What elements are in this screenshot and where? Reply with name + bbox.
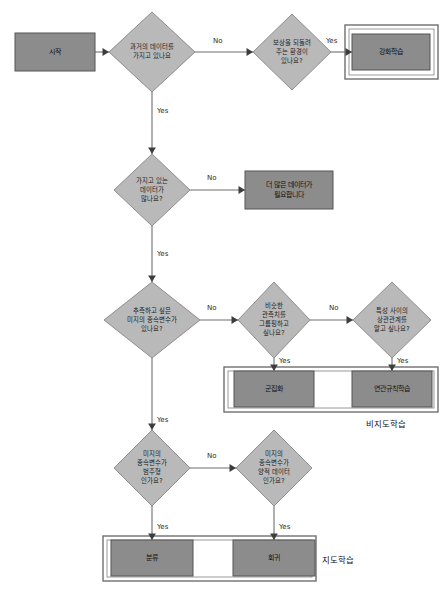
node-b_regress[interactable]: 회귀: [233, 540, 315, 576]
node-label-d_reward: 보상을 되돌려: [273, 38, 311, 47]
node-label-d_target: 있나요?: [141, 324, 162, 333]
node-label-b_class: 분류: [146, 554, 159, 562]
group-caption-g_supervised: 지도학습: [322, 555, 354, 565]
node-d_enough[interactable]: 가지고 있는데이터가많나요?: [114, 154, 190, 226]
node-label-d_reward: 주는 환경이: [276, 47, 308, 56]
group-captions-layer: 비지도학습지도학습: [322, 419, 406, 565]
arrowhead-b_cluster: [270, 365, 278, 372]
flowchart-svg: 시작과거의 데이터를가지고 있나요보상을 되돌려주는 환경이있나요?강화학습가지…: [0, 0, 444, 593]
node-label-d_corr: 상관관계를: [377, 315, 407, 324]
node-b_cluster[interactable]: 군집화: [234, 371, 314, 407]
node-label-d_corr: 특성 사이의: [376, 306, 408, 315]
node-label-d_group: 싶나요?: [263, 328, 284, 337]
edge-label-d_quant-to-b_regress: Yes: [278, 523, 291, 531]
node-label-d_categor: 미지의: [143, 449, 161, 458]
flowchart-canvas: 시작과거의 데이터를가지고 있나요보상을 되돌려주는 환경이있나요?강화학습가지…: [0, 0, 444, 593]
node-label-start: 시작: [49, 47, 62, 56]
arrowhead-d_quant: [230, 464, 237, 472]
edge-label-d_group-to-d_corr: No: [329, 304, 339, 312]
node-d_target[interactable]: 추측하고 싶은미지의 종속변수가있나요?: [104, 282, 200, 358]
node-label-b_cluster: 군집화: [265, 384, 284, 393]
node-label-d_history: 가지고 있나요: [133, 51, 171, 60]
edge-label-d_history-to-d_enough: Yes: [156, 107, 169, 115]
node-label-d_target: 미지의 종속변수가: [127, 315, 177, 324]
node-b_rl[interactable]: 강화학습: [352, 34, 430, 70]
node-label-d_enough: 가지고 있는: [136, 176, 168, 185]
node-label-b_rl: 강화학습: [379, 47, 404, 56]
arrowhead-d_target: [148, 276, 156, 283]
node-label-b_moredata: 더 많은 데이터가: [266, 180, 313, 189]
node-label-d_quant: 미지의: [265, 449, 283, 458]
arrowhead-d_reward: [247, 48, 254, 56]
edge-label-d_corr-to-b_assoc: Yes: [396, 357, 409, 365]
node-d_quant[interactable]: 미지의종속변수가양적 데이터인가요?: [236, 430, 312, 506]
arrowhead-b_regress: [270, 534, 278, 541]
node-b_moredata[interactable]: 더 많은 데이터가필요합니다: [245, 171, 333, 209]
edge-label-d_enough-to-d_target: Yes: [156, 250, 169, 258]
arrowhead-d_group: [232, 316, 239, 324]
group-caption-g_unsupervised: 비지도학습: [366, 419, 406, 429]
arrowhead-b_assoc: [388, 365, 396, 372]
nodes-layer: 시작과거의 데이터를가지고 있나요보상을 되돌려주는 환경이있나요?강화학습가지…: [15, 12, 432, 576]
node-label-d_target: 추측하고 싶은: [133, 306, 171, 315]
arrowhead-d_enough: [148, 148, 156, 155]
node-label-d_history: 과거의 데이터를: [130, 42, 174, 51]
node-d_history[interactable]: 과거의 데이터를가지고 있나요: [109, 12, 195, 92]
node-label-d_group: 비슷한: [265, 301, 283, 310]
node-label-d_reward: 있나요?: [281, 56, 302, 65]
edge-label-d_history-to-d_reward: No: [213, 37, 223, 45]
node-label-d_categor: 인가요?: [141, 476, 162, 485]
arrowhead-d_history: [103, 48, 110, 56]
node-label-b_regress: 회귀: [268, 553, 280, 562]
node-b_class[interactable]: 분류: [111, 540, 193, 576]
arrowhead-b_class: [148, 534, 156, 541]
node-label-b_assoc: 연관규칙학습: [374, 384, 411, 393]
node-label-d_group: 그룹핑하고: [259, 319, 289, 328]
node-label-d_group: 관측치를: [262, 310, 286, 319]
node-label-d_enough: 많나요?: [141, 194, 162, 203]
edge-label-d_categor-to-d_quant: No: [207, 452, 217, 460]
arrowhead-b_moredata: [239, 186, 246, 194]
node-label-d_quant: 종속변수가: [259, 458, 289, 467]
node-label-d_categor: 종속변수가: [137, 458, 167, 467]
node-label-d_enough: 데이터가: [140, 185, 164, 194]
node-d_corr[interactable]: 특성 사이의상관관계를알고 싶나요?: [353, 282, 431, 358]
node-d_group[interactable]: 비슷한관측치를그룹핑하고싶나요?: [238, 282, 310, 358]
arrowhead-d_corr: [347, 316, 354, 324]
node-start[interactable]: 시작: [15, 33, 95, 71]
edge-label-d_group-to-b_cluster: Yes: [278, 357, 291, 365]
arrowhead-d_categor: [148, 424, 156, 431]
node-d_reward[interactable]: 보상을 되돌려주는 환경이있나요?: [253, 14, 331, 90]
node-label-d_quant: 인가요?: [263, 476, 284, 485]
edge-label-d_enough-to-b_moredata: No: [207, 174, 217, 182]
node-label-b_moredata: 필요합니다: [274, 190, 305, 199]
edge-label-d_target-to-d_categor: Yes: [156, 416, 169, 424]
node-label-d_categor: 범주형: [143, 467, 161, 476]
edge-label-d_categor-to-b_class: Yes: [156, 523, 169, 531]
node-d_categor[interactable]: 미지의종속변수가범주형인가요?: [114, 430, 190, 506]
edge-label-d_target-to-d_group: No: [207, 304, 217, 312]
edge-label-d_reward-to-b_rl: Yes: [325, 37, 338, 45]
node-label-d_corr: 알고 싶나요?: [374, 324, 409, 333]
node-label-d_quant: 양적 데이터: [258, 467, 290, 476]
node-b_assoc[interactable]: 연관규칙학습: [352, 371, 432, 407]
